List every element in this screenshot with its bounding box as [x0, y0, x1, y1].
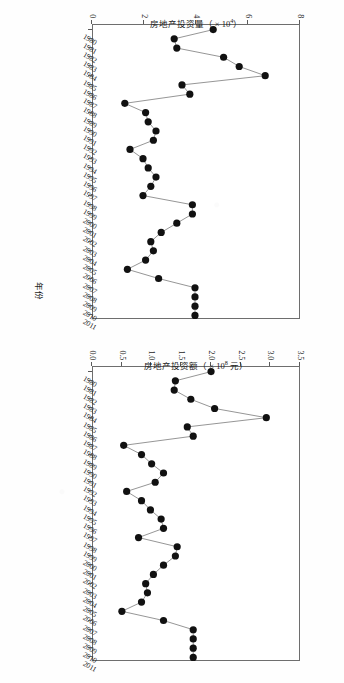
x-tick-mark: [88, 583, 92, 584]
data-point: [189, 201, 196, 208]
x-tick-mark: [88, 527, 92, 528]
x-tick-mark: [88, 250, 92, 251]
data-point: [152, 174, 159, 181]
x-tick-mark: [88, 158, 92, 159]
y-tick-label: 3.5: [296, 342, 305, 360]
x-tick-mark: [88, 656, 92, 657]
data-point: [190, 433, 197, 440]
x-tick-mark: [88, 472, 92, 473]
x-tick-mark: [88, 500, 92, 501]
data-point: [145, 164, 152, 171]
x-tick-mark: [88, 176, 92, 177]
data-point: [184, 423, 191, 430]
x-tick-mark: [88, 546, 92, 547]
data-point: [158, 516, 165, 523]
x-tick-mark: [88, 314, 92, 315]
data-point: [142, 256, 149, 263]
x-tick-mark: [88, 259, 92, 260]
data-point: [147, 183, 154, 190]
x-tick-mark: [88, 241, 92, 242]
x-tick-mark: [88, 573, 92, 574]
x-tick-mark: [88, 601, 92, 602]
y-tick-label: 2.0: [206, 342, 215, 360]
data-point: [158, 229, 165, 236]
data-point: [262, 72, 269, 79]
y-axis-title-chart-b: 房地产投资额（ × 108 元）: [121, 359, 271, 371]
x-tick-mark: [88, 435, 92, 436]
data-point: [124, 266, 131, 273]
data-point: [147, 238, 154, 245]
x-tick-mark: [88, 222, 92, 223]
data-point: [191, 312, 198, 319]
x-tick-mark: [88, 454, 92, 455]
x-tick-mark: [88, 65, 92, 66]
x-tick-mark: [88, 490, 92, 491]
x-tick-mark: [88, 564, 92, 565]
x-tick-mark: [88, 38, 92, 39]
data-point: [220, 54, 227, 61]
x-tick-mark: [88, 463, 92, 464]
x-tick-mark: [88, 29, 92, 30]
data-point: [142, 580, 149, 587]
x-tick-mark: [88, 130, 92, 131]
data-point: [186, 91, 193, 98]
x-tick-mark: [88, 537, 92, 538]
x-tick-mark: [88, 380, 92, 381]
x-tick-mark: [88, 287, 92, 288]
data-point: [118, 608, 125, 615]
data-point: [187, 396, 194, 403]
y-tick-label: 0: [88, 0, 97, 18]
data-point: [135, 534, 142, 541]
x-tick-mark: [88, 296, 92, 297]
data-point: [138, 598, 145, 605]
figure-page: 02468 1980198119821983198419851986198719…: [0, 0, 344, 683]
data-point: [123, 488, 130, 495]
data-point: [172, 377, 179, 384]
data-point: [190, 645, 197, 652]
x-tick-mark: [88, 555, 92, 556]
data-point: [174, 543, 181, 550]
plot-area-chart-b: [92, 366, 300, 661]
data-point: [121, 100, 128, 107]
data-point: [171, 386, 178, 393]
x-tick-mark: [88, 638, 92, 639]
y-tick-label: 8: [296, 0, 305, 18]
data-point: [173, 220, 180, 227]
x-tick-mark: [88, 398, 92, 399]
x-tick-mark: [88, 231, 92, 232]
data-point: [190, 626, 197, 633]
x-tick-mark: [88, 620, 92, 621]
data-point: [191, 293, 198, 300]
data-point: [126, 146, 133, 153]
data-point: [150, 247, 157, 254]
x-tick-mark: [88, 47, 92, 48]
data-point: [152, 127, 159, 134]
data-point: [160, 525, 167, 532]
x-tick-mark: [88, 148, 92, 149]
y-tick-label: 3.0: [266, 342, 275, 360]
y-axis-title-unit: ）: [233, 19, 242, 29]
x-tick-mark: [88, 213, 92, 214]
data-point: [148, 460, 155, 467]
data-point: [160, 469, 167, 476]
data-point: [138, 497, 145, 504]
x-tick-mark: [88, 112, 92, 113]
x-tick-mark: [88, 444, 92, 445]
chart-panel-investment-value: 0.00.51.01.52.02.53.03.5 198019811982198…: [0, 342, 344, 683]
data-point: [160, 562, 167, 569]
y-tick-mark: [299, 362, 300, 366]
x-tick-mark: [88, 278, 92, 279]
y-tick-label: 4: [192, 0, 201, 18]
data-point: [172, 552, 179, 559]
data-point: [147, 506, 154, 513]
data-point: [171, 35, 178, 42]
data-point: [155, 275, 162, 282]
data-point: [120, 442, 127, 449]
x-tick-mark: [88, 518, 92, 519]
data-point: [211, 405, 218, 412]
x-tick-mark: [88, 204, 92, 205]
x-tick-mark: [88, 481, 92, 482]
data-point: [178, 81, 185, 88]
y-axis-title-text: 房地产投资额（ × 10: [144, 361, 225, 371]
x-tick-mark: [88, 592, 92, 593]
